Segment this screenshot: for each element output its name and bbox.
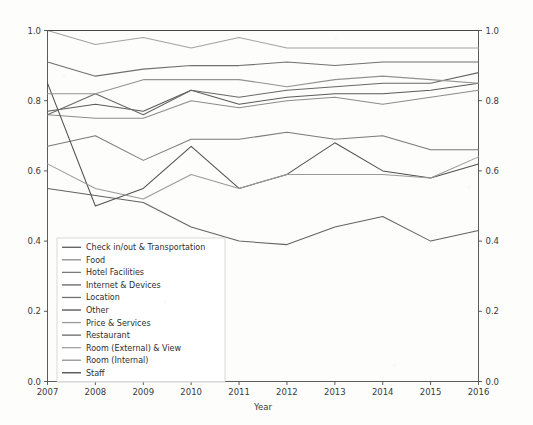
- x-axis-tick-label: 2011: [228, 387, 250, 397]
- series-line-internet-devices: [48, 188, 479, 244]
- legend-label[interactable]: Other: [86, 306, 109, 315]
- legend-label[interactable]: Room (External) & View: [86, 344, 182, 353]
- x-axis-tick-label: 2007: [37, 387, 59, 397]
- y-axis-tick-label-right: 1.0: [486, 26, 500, 36]
- y-axis-tick-label-left: 0.8: [27, 96, 41, 106]
- series-line-hotel-facilities: [48, 132, 479, 160]
- legend-label[interactable]: Price & Services: [86, 319, 151, 328]
- chart-figure: Check in/out & TransportationFoodHotel F…: [0, 0, 533, 425]
- x-axis-tick-label: 2014: [372, 387, 394, 397]
- x-axis-tick-label: 2013: [324, 387, 346, 397]
- y-axis-tick-label-right: 0.6: [486, 166, 500, 176]
- x-axis-tick-label: 2012: [276, 387, 298, 397]
- y-axis-tick-label-right: 0.2: [486, 306, 500, 316]
- x-axis-title: Year: [253, 402, 273, 412]
- series-line-restaurant: [48, 73, 479, 115]
- series-line-price-services: [48, 157, 479, 199]
- y-axis-tick-label-right: 0.8: [486, 96, 500, 106]
- legend-label[interactable]: Staff: [86, 369, 105, 378]
- chart-legend: Check in/out & TransportationFoodHotel F…: [57, 238, 225, 382]
- y-axis-tick-label-right: 0.0: [486, 377, 500, 387]
- x-axis-tick-label: 2015: [420, 387, 442, 397]
- y-axis-tick-label-right: 0.4: [486, 236, 500, 246]
- x-axis-tick-label: 2009: [132, 387, 154, 397]
- y-axis-tick-label-left: 0.6: [27, 166, 41, 176]
- x-axis-tick-label: 2010: [180, 387, 202, 397]
- line-chart-canvas: Check in/out & TransportationFoodHotel F…: [0, 0, 533, 425]
- x-axis-tick-label: 2016: [468, 387, 490, 397]
- y-axis-tick-label-left: 0.0: [27, 377, 41, 387]
- series-line-location: [48, 62, 479, 76]
- legend-label[interactable]: Restaurant: [86, 331, 130, 340]
- legend-label[interactable]: Hotel Facilities: [86, 268, 144, 277]
- legend-label[interactable]: Check in/out & Transportation: [86, 243, 205, 252]
- series-line-room-external-view: [48, 31, 479, 49]
- y-axis-tick-label-left: 0.4: [27, 236, 41, 246]
- legend-label[interactable]: Internet & Devices: [86, 281, 161, 290]
- legend-label[interactable]: Room (Internal): [86, 356, 148, 365]
- series-line-food: [48, 90, 479, 118]
- y-axis-tick-label-left: 1.0: [27, 26, 41, 36]
- legend-label[interactable]: Food: [86, 256, 105, 265]
- legend-label[interactable]: Location: [86, 293, 120, 302]
- x-axis-tick-label: 2008: [85, 387, 107, 397]
- series-line-check-in-out-transportation: [48, 83, 479, 111]
- series-layer: [48, 31, 479, 245]
- y-axis-tick-label-left: 0.2: [27, 306, 41, 316]
